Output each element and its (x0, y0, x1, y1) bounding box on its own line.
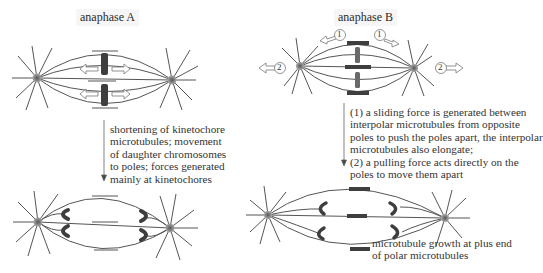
anaphase-a-bottom-right-pole (166, 224, 175, 233)
caption-line: to poles; forces generated (110, 160, 226, 172)
anaphase-b-top-right-pole (410, 64, 418, 72)
caption-line: of daughter chromosomes (110, 148, 226, 160)
microtubule-growth-label: microtubule growth at plus end of polar … (372, 237, 512, 262)
right-pole-asters (160, 48, 198, 110)
caption-line: (2) a pulling force acts directly on the (350, 156, 543, 168)
anaphase-a-bottom-left-pole (34, 218, 43, 227)
caption-line: poles to push the poles apart, the inter… (350, 131, 543, 143)
caption-line: microtubules; movement (110, 135, 226, 147)
anaphase-b-bottom-chromosomes (319, 203, 398, 239)
caption-line: mainly at kinetochores (110, 173, 226, 185)
anaphase-b-top-left-pole (296, 62, 304, 70)
growth-label-line: of polar microtubules (372, 249, 512, 261)
force-label-2-right: 2 (438, 61, 443, 73)
caption-line: microtubules also elongate; (350, 143, 543, 155)
force-label-1-right: 1 (377, 28, 382, 40)
anaphase-b-bottom-left-pole (264, 211, 272, 219)
anaphase-a-top-right-pole (168, 76, 177, 85)
anaphase-b-process-arrow (342, 103, 347, 166)
anaphase-a-top-left-pole (33, 74, 42, 83)
anaphase-b-bottom-overlaps (347, 187, 370, 251)
force-label-2-left: 2 (277, 61, 282, 73)
caption-line: poles to move them apart (350, 168, 543, 180)
caption-line: shortening of kinetochore (110, 123, 226, 135)
caption-line: interpolar microtubules from opposite (350, 118, 543, 130)
caption-line: (1) a sliding force is generated between (350, 106, 543, 118)
force-label-1-left: 1 (337, 28, 342, 40)
anaphase-b-bottom-right-pole (441, 214, 449, 222)
anaphase-a-caption: shortening of kinetochore microtubules; … (110, 123, 226, 185)
anaphase-b-caption: (1) a sliding force is generated between… (350, 106, 543, 180)
anaphase-a-process-arrow (102, 120, 107, 181)
growth-label-line: microtubule growth at plus end (372, 237, 512, 249)
